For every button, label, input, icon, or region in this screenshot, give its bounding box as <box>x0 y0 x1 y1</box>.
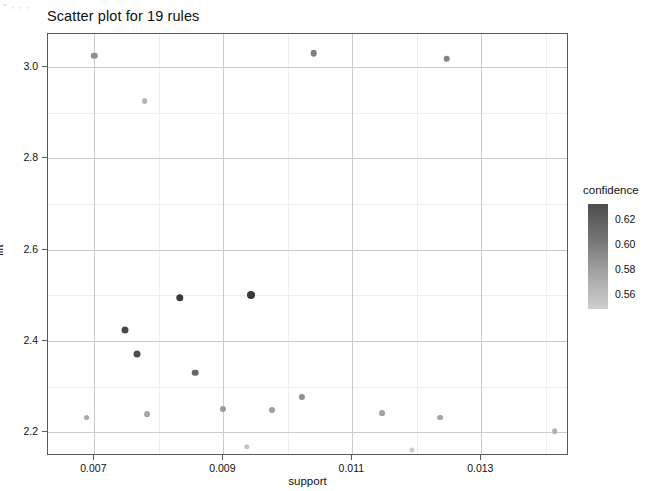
x-axis-title: support <box>47 475 568 487</box>
gridline-horizontal <box>48 432 567 433</box>
scatter-point[interactable] <box>142 98 148 104</box>
y-axis-tick <box>42 340 47 341</box>
gridline-horizontal <box>48 158 567 159</box>
y-axis-title: lift <box>0 244 5 256</box>
scatter-point[interactable] <box>409 447 414 452</box>
gridline-vertical-minor <box>288 34 289 454</box>
scatter-point[interactable] <box>299 394 305 400</box>
x-axis-tick <box>480 455 481 460</box>
legend-colorbar <box>588 204 608 309</box>
scatter-point[interactable] <box>134 350 141 357</box>
scatter-point[interactable] <box>437 415 443 421</box>
scatter-point[interactable] <box>176 294 183 301</box>
chart-title: Scatter plot for 19 rules <box>47 8 199 24</box>
legend-tick-label: 0.62 <box>615 213 635 225</box>
x-axis-tick-label: 0.013 <box>467 462 493 474</box>
legend-tick-label: 0.60 <box>615 238 635 250</box>
scatter-point[interactable] <box>310 50 317 57</box>
y-axis-tick-label: 2.8 <box>23 151 38 163</box>
y-axis-tick-label: 2.2 <box>23 425 38 437</box>
gridline-horizontal-minor <box>48 295 567 296</box>
y-axis-tick-label: 3.0 <box>23 60 38 72</box>
scatter-point[interactable] <box>247 291 255 299</box>
legend-title: confidence <box>583 184 639 196</box>
scatter-point[interactable] <box>379 410 385 416</box>
gridline-vertical <box>223 34 224 454</box>
scatter-point[interactable] <box>84 415 90 421</box>
scatter-point[interactable] <box>552 429 558 435</box>
x-axis-tick <box>93 455 94 460</box>
gridline-vertical <box>94 34 95 454</box>
legend-tick-label: 0.56 <box>615 288 635 300</box>
gridline-vertical-minor <box>546 34 547 454</box>
gridline-vertical <box>352 34 353 454</box>
y-axis-tick <box>42 431 47 432</box>
x-axis-tick-label: 0.007 <box>80 462 106 474</box>
gridline-horizontal-minor <box>48 204 567 205</box>
scatter-point[interactable] <box>91 52 97 58</box>
legend-tick-label: 0.58 <box>615 263 635 275</box>
gridline-vertical-minor <box>417 34 418 454</box>
scatter-point[interactable] <box>192 370 199 377</box>
scatter-point[interactable] <box>122 326 129 333</box>
gridline-horizontal-minor <box>48 387 567 388</box>
gridline-horizontal <box>48 341 567 342</box>
gridline-horizontal-minor <box>48 113 567 114</box>
y-axis-tick <box>42 66 47 67</box>
plot-panel <box>47 33 568 455</box>
gridline-vertical-minor <box>159 34 160 454</box>
scatter-point[interactable] <box>220 406 226 412</box>
scan-speckle-artifact: ~ , , , <box>2 0 46 11</box>
scatter-point[interactable] <box>269 407 275 413</box>
gridline-horizontal <box>48 250 567 251</box>
x-axis-tick-label: 0.009 <box>209 462 235 474</box>
plot-area <box>48 34 567 454</box>
scatter-plot-figure: ~ , , , Scatter plot for 19 rules 0.0070… <box>0 0 652 491</box>
y-axis-tick <box>42 157 47 158</box>
x-axis-tick <box>351 455 352 460</box>
scatter-point[interactable] <box>144 411 150 417</box>
scatter-point[interactable] <box>443 55 450 62</box>
y-axis-tick-label: 2.4 <box>23 334 38 346</box>
x-axis-tick <box>222 455 223 460</box>
scatter-point[interactable] <box>244 444 249 449</box>
y-axis-tick-label: 2.6 <box>23 243 38 255</box>
y-axis-tick <box>42 249 47 250</box>
gridline-vertical <box>481 34 482 454</box>
x-axis-tick-label: 0.011 <box>339 462 365 474</box>
gridline-horizontal <box>48 67 567 68</box>
